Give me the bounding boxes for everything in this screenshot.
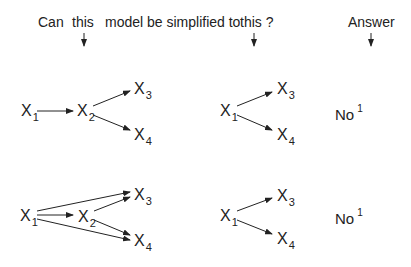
node-subscript: 1 [232,111,238,123]
row1-original-node-x3: X3 [134,81,152,101]
row1-simplified-node-x3: X3 [277,81,295,101]
node-subscript: 1 [33,111,39,123]
node-subscript: 2 [89,111,95,123]
node-label: X [77,102,88,119]
node-label: X [134,126,145,143]
row2-original-node-x2: X2 [78,209,96,229]
row1-simplified-node-x1: X1 [220,103,238,123]
row2-simplified-node-x4: X4 [277,231,295,251]
footnote-marker: 1 [357,207,363,218]
row2-original-node-x3: X3 [134,187,152,207]
node-label: X [220,102,231,119]
node-subscript: 3 [146,89,152,101]
node-label: X [277,187,288,204]
node-label: X [20,207,31,224]
answer-text: No [335,210,354,227]
node-subscript: 2 [90,217,96,229]
node-label: X [277,230,288,247]
row2-original-node-x1: X1 [20,208,38,228]
node-label: X [21,102,32,119]
node-subscript: 3 [146,195,152,207]
node-label: X [277,80,288,97]
row1-original-node-x4: X4 [134,127,152,147]
row1-original-node-x2: X2 [77,103,95,123]
row2-simplified-edges [237,198,272,234]
node-subscript: 4 [289,135,295,147]
node-label: X [134,80,145,97]
row1-simplified-node-x4: X4 [277,127,295,147]
node-subscript: 4 [146,135,152,147]
answer-text: No [335,106,354,123]
node-label: X [220,207,231,224]
node-subscript: 1 [232,216,238,228]
row1-original-node-x1: X1 [21,103,39,123]
node-subscript: 4 [289,239,295,251]
row1-simplified-edges [237,92,272,130]
row2-simplified-node-x3: X3 [277,188,295,208]
footnote-marker: 1 [357,103,363,114]
node-subscript: 3 [289,196,295,208]
node-label: X [78,208,89,225]
row2-simplified-node-x1: X1 [220,208,238,228]
row1-answer: No1 [335,104,363,122]
node-label: X [134,232,145,249]
row2-answer: No1 [335,208,363,226]
node-label: X [277,126,288,143]
row2-original-node-x4: X4 [134,233,152,253]
node-label: X [134,186,145,203]
node-subscript: 3 [289,89,295,101]
node-subscript: 1 [32,216,38,228]
node-subscript: 4 [146,241,152,253]
